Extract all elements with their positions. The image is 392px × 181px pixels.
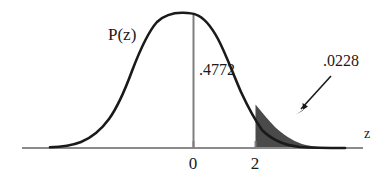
- x-axis-label: z: [364, 127, 370, 141]
- shaded-tail-region: [256, 105, 341, 149]
- x-tick-label-two: 2: [243, 155, 267, 172]
- density-curve-label: P(z): [108, 26, 136, 43]
- normal-distribution-figure: P(z) .4772 .0228 z 0 2: [0, 0, 392, 181]
- normal-curve: [50, 13, 345, 148]
- right-area-label: .0228: [323, 53, 359, 69]
- x-tick-label-zero: 0: [181, 155, 205, 172]
- annotation-arrow: [296, 76, 331, 115]
- left-area-label: .4772: [199, 62, 235, 78]
